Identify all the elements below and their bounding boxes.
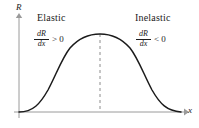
fraction-numerator-left: dR [35, 30, 48, 38]
derivative-expression-right: dR dx < 0 [136, 30, 166, 49]
arrow-up-icon [16, 13, 22, 18]
revenue-elasticity-figure: R x Elastic Inelastic dR dx > 0 dR dx < … [0, 0, 199, 128]
fraction-left: dR dx [34, 30, 49, 49]
derivative-annotation-left: dR dx > 0 [34, 30, 64, 49]
derivative-expression-left: dR dx > 0 [34, 30, 64, 49]
fraction-right: dR dx [136, 30, 151, 49]
fraction-numerator-right: dR [137, 30, 150, 38]
relation-right: < 0 [154, 35, 166, 44]
y-axis-label: R [16, 3, 22, 12]
relation-left: > 0 [52, 35, 64, 44]
region-label-elastic: Elastic [37, 13, 66, 23]
derivative-annotation-right: dR dx < 0 [136, 30, 166, 49]
fraction-denominator-left: dx [36, 40, 48, 48]
fraction-denominator-right: dx [138, 40, 150, 48]
region-label-inelastic: Inelastic [135, 13, 171, 23]
x-axis-label: x [188, 106, 192, 115]
